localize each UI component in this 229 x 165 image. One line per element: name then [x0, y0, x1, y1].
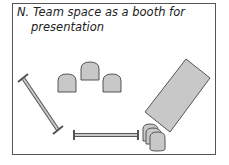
presentation-table — [145, 59, 210, 132]
seat-center — [81, 62, 99, 80]
barrier-horizontal — [74, 130, 138, 140]
seat-right — [103, 74, 121, 92]
barrier-diagonal — [18, 74, 63, 134]
floor-plan — [0, 0, 229, 165]
chair-stack — [143, 124, 165, 151]
seat-left — [58, 74, 76, 92]
